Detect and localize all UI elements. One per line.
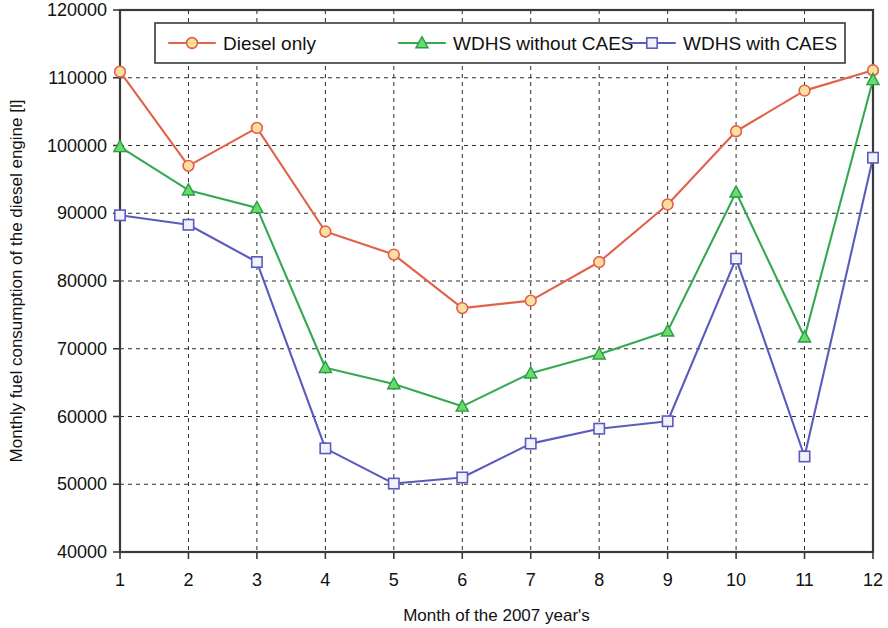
data-point-marker [799,85,810,96]
data-point-marker [389,478,399,488]
data-point-marker [457,303,468,314]
y-tick-label: 80000 [57,271,107,291]
y-tick-label: 120000 [47,0,107,20]
chart-legend: Diesel onlyWDHS without CAESWDHS with CA… [155,23,845,63]
x-tick-label: 2 [183,570,193,590]
data-point-marker [115,210,125,220]
data-point-marker [320,226,331,237]
y-tick-label: 90000 [57,203,107,223]
x-tick-label: 10 [726,570,746,590]
y-tick-label: 70000 [57,339,107,359]
y-tick-label: 40000 [57,542,107,562]
y-tick-label: 100000 [47,136,107,156]
data-point-marker [183,220,193,230]
data-point-marker [115,66,126,77]
data-point-marker [457,472,467,482]
legend-label: Diesel only [223,33,316,54]
legend-marker [647,38,657,48]
x-tick-label: 8 [594,570,604,590]
x-tick-label: 3 [252,570,262,590]
y-tick-label: 50000 [57,474,107,494]
data-point-marker [525,295,536,306]
data-point-marker [252,257,262,267]
data-point-marker [662,199,673,210]
chart-figure: 4000050000600007000080000900001000001100… [0,0,888,628]
data-point-marker [731,126,742,137]
data-point-marker [594,257,605,268]
data-point-marker [252,122,263,133]
data-point-marker [594,423,604,433]
x-tick-label: 12 [863,570,883,590]
data-point-marker [526,438,536,448]
y-axis-title: Monthly fuel consumption of the diesel e… [7,100,26,463]
data-point-marker [662,416,672,426]
data-point-marker [868,152,878,162]
x-axis-title: Month of the 2007 year's [403,606,590,625]
legend-label: WDHS without CAES [453,33,634,54]
x-tick-label: 1 [115,570,125,590]
x-tick-label: 9 [663,570,673,590]
data-point-marker [799,451,809,461]
data-point-marker [388,249,399,260]
x-tick-label: 11 [795,570,814,590]
x-tick-label: 4 [320,570,330,590]
data-point-marker [731,253,741,263]
legend-label: WDHS with CAES [683,33,837,54]
legend-marker [187,38,198,49]
x-tick-label: 7 [526,570,536,590]
data-point-marker [183,160,194,171]
fuel-consumption-line-chart: 4000050000600007000080000900001000001100… [0,0,888,628]
x-tick-label: 5 [389,570,399,590]
y-tick-label: 60000 [57,407,107,427]
y-tick-label: 110000 [48,68,107,88]
data-point-marker [320,443,330,453]
x-tick-label: 6 [457,570,467,590]
